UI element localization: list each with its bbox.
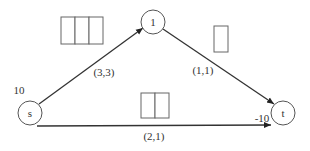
node-s-label: s: [28, 107, 32, 119]
supply-s-label: 10: [14, 84, 26, 96]
node-t-label: t: [281, 107, 284, 119]
box-group-s-to-t: [141, 93, 169, 118]
node-s: s: [18, 101, 42, 125]
edge-s-to-t-label: (2,1): [143, 130, 164, 143]
box-group-s-to-1: [61, 17, 103, 44]
node-1: 1: [141, 10, 165, 34]
edge-s-to-1-label: (3,3): [93, 66, 114, 79]
edge-s-to-t: [37, 125, 271, 126]
box-group-1-to-t: [214, 26, 228, 52]
supply-t-label: -10: [255, 112, 270, 124]
node-1-label: 1: [150, 16, 156, 28]
flow-network-diagram: s 1 t 10 -10 (3,3) (1,1) (2,1): [0, 0, 310, 151]
edge-1-to-t-label: (1,1): [192, 64, 213, 77]
node-t: t: [271, 101, 295, 125]
